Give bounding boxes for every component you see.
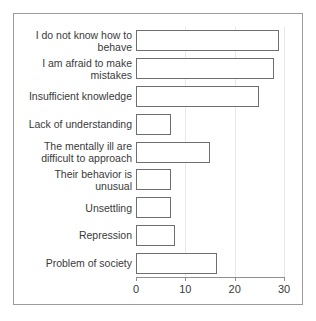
x-tick-20: [235, 277, 236, 281]
x-tick-label: 10: [165, 283, 205, 296]
x-tick-label: 20: [215, 283, 255, 296]
x-tick-30: [284, 277, 285, 281]
x-tick-label: 30: [264, 283, 304, 296]
category-label: Problem of society: [20, 257, 132, 269]
bar: [136, 86, 259, 107]
category-label: Insufficient knowledge: [20, 90, 132, 102]
bar: [136, 142, 210, 163]
gridline-x-30: [284, 27, 285, 277]
bar: [136, 30, 279, 51]
x-axis-line: [136, 277, 284, 278]
bar: [136, 58, 274, 79]
x-tick-0: [136, 277, 137, 281]
bar: [136, 253, 217, 274]
bar: [136, 114, 171, 135]
category-label: I do not know how to behave: [20, 29, 132, 53]
bar-chart-figure: I do not know how to behaveI am afraid t…: [0, 0, 316, 321]
bar: [136, 169, 171, 190]
category-label: Their behavior is unusual: [20, 168, 132, 192]
category-label: The mentally ill are difficult to approa…: [20, 140, 132, 164]
x-tick-label: 0: [116, 283, 156, 296]
category-label: I am afraid to make mistakes: [20, 57, 132, 81]
x-tick-10: [185, 277, 186, 281]
bar: [136, 197, 171, 218]
category-label: Unsettling: [20, 202, 132, 214]
bar: [136, 225, 175, 246]
category-label: Repression: [20, 229, 132, 241]
category-label: Lack of understanding: [20, 118, 132, 130]
